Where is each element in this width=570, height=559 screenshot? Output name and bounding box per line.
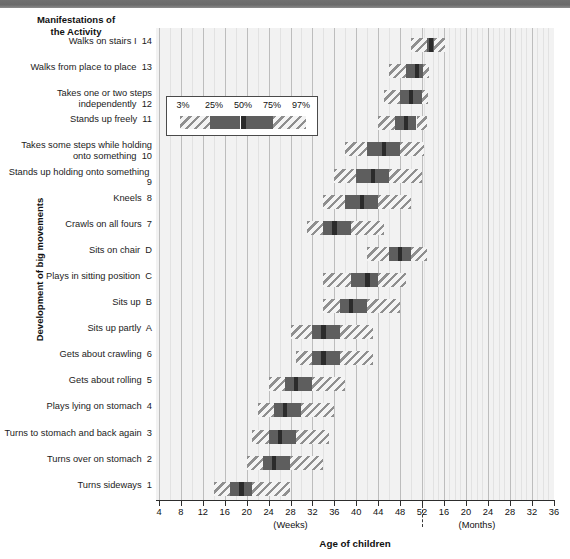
row-label-text: Sits on chair [89, 245, 145, 255]
row-label: Stands up holding onto something 9 [2, 167, 152, 188]
legend-segment-p75-p97 [273, 116, 306, 129]
x-tick-label: 4 [156, 507, 161, 517]
gridline [159, 28, 160, 500]
bar-segment-p50-p75 [326, 325, 340, 339]
bar-segment-p50-p75 [298, 377, 312, 391]
x-tick [444, 500, 445, 506]
x-tick-label: 40 [351, 507, 361, 517]
bar-segment-p25-p50 [285, 377, 294, 391]
bar-segment-p3-p25 [258, 403, 274, 417]
row-label-code: 2 [147, 454, 152, 464]
percentile-bar [323, 299, 400, 313]
percentile-bar [307, 221, 384, 235]
x-unit-months: (Months) [459, 520, 496, 530]
legend-percentile-50: 50% [234, 100, 252, 110]
percentile-bar [258, 403, 335, 417]
percentile-bar [252, 430, 329, 444]
legend-segment-p3-p25 [180, 116, 210, 129]
row-label: Kneels 8 [2, 193, 152, 204]
bar-segment-p75-p97 [400, 142, 424, 156]
bar-segment-p3-p25 [269, 377, 285, 391]
bar-segment-p75-p97 [417, 116, 427, 130]
row-label-code: 11 [142, 114, 152, 124]
row-label-text: Crawls on all fours [65, 219, 147, 229]
bar-segment-p75-p97 [434, 38, 444, 52]
bar-segment-p50-p75 [402, 247, 411, 261]
x-tick [225, 500, 226, 506]
gridline [444, 28, 445, 500]
bar-segment-p25-p50 [323, 221, 332, 235]
row-label-code: B [146, 297, 152, 307]
bar-segment-p3-p25 [323, 273, 350, 287]
legend-segment-p25-p50 [210, 116, 240, 129]
row-label-code: C [145, 271, 152, 281]
gridline [548, 28, 549, 500]
percentile-bar [247, 456, 324, 470]
row-label: Turns to stomach and back again 3 [2, 428, 152, 439]
bar-segment-p50-p75 [386, 142, 400, 156]
gridline [460, 28, 461, 500]
x-tick [554, 500, 555, 506]
x-tick-label: 36 [329, 507, 339, 517]
bar-segment-p25-p50 [406, 64, 415, 78]
percentile-bar [323, 273, 405, 287]
row-label-text: Plays in sitting position [46, 271, 145, 281]
bar-segment-p25-p50 [351, 273, 365, 287]
gridline [515, 28, 516, 500]
gridline [532, 28, 533, 500]
row-label-column: Walks on stairs I 14Walks from place to … [0, 0, 152, 559]
gridline [438, 28, 439, 500]
x-tick-label: 20 [241, 507, 251, 517]
row-label-code: 8 [147, 193, 152, 203]
row-label: Turns over on stomach 2 [2, 454, 152, 465]
bar-segment-p25-p50 [263, 456, 272, 470]
x-tick [159, 500, 160, 506]
gridline [471, 28, 472, 500]
gridline [367, 28, 368, 500]
bar-segment-p50-p75 [337, 221, 351, 235]
bar-segment-p75-p97 [378, 195, 411, 209]
row-label: Turns sideways 1 [2, 480, 152, 491]
percentile-bar [367, 247, 427, 261]
legend-sample-bar [180, 116, 306, 129]
row-label-text: Sits up [112, 297, 146, 307]
x-tick [312, 500, 313, 506]
bar-segment-p25-p50 [340, 299, 349, 313]
x-tick-label: 28 [505, 507, 515, 517]
row-label-code: A [146, 323, 152, 333]
row-label: Sits up B [2, 297, 152, 308]
bar-segment-p25-p50 [269, 430, 278, 444]
x-tick-label: 36 [549, 507, 559, 517]
bar-segment-p50-p75 [353, 299, 367, 313]
bar-segment-p3-p25 [389, 64, 405, 78]
legend-percentile-3: 3% [176, 100, 189, 110]
x-tick-label: 16 [439, 507, 449, 517]
row-label-code: 13 [142, 62, 152, 72]
x-tick [466, 500, 467, 506]
bar-segment-p25-p50 [395, 116, 404, 130]
bar-segment-p25-p50 [312, 325, 321, 339]
gridline [477, 28, 478, 500]
x-tick-label: 24 [263, 507, 273, 517]
row-label: Takes one or two steps independently 12 [2, 88, 152, 109]
row-label-text: Walks from place to place [30, 62, 141, 72]
x-tick [181, 500, 182, 506]
row-label-code: 6 [147, 349, 152, 359]
row-label: Gets about rolling 5 [2, 375, 152, 386]
bar-segment-p75-p97 [367, 299, 400, 313]
row-label-text: Kneels [113, 193, 147, 203]
bar-segment-p75-p97 [378, 273, 405, 287]
x-tick [510, 500, 511, 506]
x-tick-label: 16 [220, 507, 230, 517]
row-label-code: 14 [142, 36, 152, 46]
bar-segment-p3-p25 [214, 482, 230, 496]
legend-percentile-97: 97% [292, 100, 310, 110]
row-label: Stands up freely 11 [2, 114, 152, 125]
row-label-text: Turns sideways [77, 480, 146, 490]
x-tick-label: 32 [527, 507, 537, 517]
x-tick [378, 500, 379, 506]
row-label-text: Sits up partly [87, 323, 145, 333]
row-label-code: 5 [147, 375, 152, 385]
x-tick-label: 28 [285, 507, 295, 517]
percentile-bar [384, 90, 428, 104]
